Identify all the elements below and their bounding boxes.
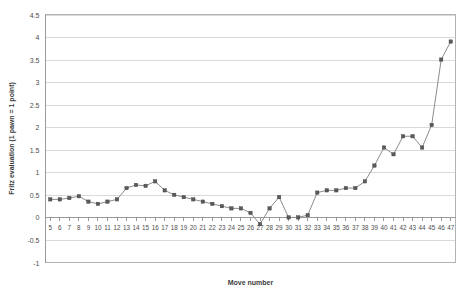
fritz-evaluation-line-chart: 4.543.532.521.510.50-0.5-1 5678910111213… — [0, 0, 462, 292]
data-point-marker — [325, 189, 328, 192]
data-point-marker — [163, 189, 166, 192]
data-point-marker — [87, 200, 90, 203]
y-tick-label: 2.5 — [30, 102, 40, 109]
data-point-marker — [392, 153, 395, 156]
data-point-marker — [306, 213, 309, 216]
y-tick-label: 0 — [36, 214, 40, 221]
x-tick-label: 43 — [409, 224, 417, 231]
x-tick-label: 44 — [419, 224, 427, 231]
x-tick-label: 45 — [428, 224, 436, 231]
x-tick-label: 22 — [209, 224, 217, 231]
x-tick-label: 6 — [58, 224, 62, 231]
x-tick-label: 15 — [142, 224, 150, 231]
data-point-marker — [211, 202, 214, 205]
data-point-marker — [363, 180, 366, 183]
x-tick-label: 11 — [104, 224, 111, 231]
data-point-marker — [268, 207, 271, 210]
x-tick-label: 39 — [371, 224, 379, 231]
data-point-marker — [201, 200, 204, 203]
data-point-marker — [354, 186, 357, 189]
data-point-marker — [239, 207, 242, 210]
y-tick-label: -1 — [33, 260, 39, 267]
x-tick-label: 41 — [390, 224, 398, 231]
chart-container: 4.543.532.521.510.50-0.5-1 5678910111213… — [0, 0, 462, 292]
x-tick-label: 5 — [49, 224, 53, 231]
x-tick-label: 8 — [77, 224, 81, 231]
x-tick-label: 19 — [180, 224, 188, 231]
data-point-marker — [335, 189, 338, 192]
x-tick-label: 28 — [266, 224, 274, 231]
data-point-marker — [134, 183, 137, 186]
data-point-marker — [440, 58, 443, 61]
data-point-marker — [182, 195, 185, 198]
series-line — [50, 42, 450, 225]
x-tick-label: 21 — [199, 224, 207, 231]
data-point-marker — [144, 184, 147, 187]
x-tick-label: 46 — [438, 224, 446, 231]
x-tick-label: 47 — [447, 224, 455, 231]
y-axis-title: Fritz evaluation (1 pawn = 1 point) — [8, 82, 16, 195]
data-point-marker — [173, 193, 176, 196]
x-tick-label: 12 — [114, 224, 122, 231]
y-tick-label: 1.5 — [30, 147, 40, 154]
x-tick-label: 35 — [333, 224, 341, 231]
y-tick-label: 3 — [36, 79, 40, 86]
y-tick-label: 1 — [36, 169, 40, 176]
x-tick-label: 42 — [400, 224, 408, 231]
x-tick-label: 24 — [228, 224, 236, 231]
x-tick-label: 17 — [161, 224, 169, 231]
x-axis-title: Move number — [228, 279, 274, 286]
data-point-marker — [115, 198, 118, 201]
data-point-marker — [430, 123, 433, 126]
data-point-marker — [258, 222, 261, 225]
y-tick-label: 4 — [36, 34, 40, 41]
data-point-marker — [401, 135, 404, 138]
data-point-marker — [58, 198, 61, 201]
y-tick-label: 3.5 — [30, 57, 40, 64]
x-tick-label: 16 — [152, 224, 160, 231]
x-axis-tick-labels: 5678910111213141516171819202122232425262… — [49, 224, 455, 231]
data-point-marker — [106, 200, 109, 203]
data-point-marker — [411, 135, 414, 138]
data-point-marker — [344, 186, 347, 189]
x-tick-label: 33 — [314, 224, 322, 231]
data-point-marker — [68, 196, 71, 199]
data-point-marker — [382, 146, 385, 149]
data-point-marker — [277, 195, 280, 198]
data-point-marker — [296, 216, 299, 219]
data-point-marker — [153, 180, 156, 183]
x-tick-label: 36 — [342, 224, 350, 231]
x-tick-label: 10 — [94, 224, 102, 231]
x-tick-label: 23 — [218, 224, 226, 231]
x-tick-label: 26 — [247, 224, 255, 231]
data-point-marker — [96, 202, 99, 205]
y-axis-tick-labels: 4.543.532.521.510.50-0.5-1 — [27, 12, 39, 267]
data-point-marker — [77, 195, 80, 198]
x-tick-label: 13 — [123, 224, 131, 231]
x-tick-label: 37 — [352, 224, 360, 231]
x-tick-label: 7 — [68, 224, 72, 231]
x-tick-label: 32 — [304, 224, 312, 231]
x-tick-label: 25 — [237, 224, 245, 231]
data-point-marker — [420, 146, 423, 149]
x-tick-label: 30 — [285, 224, 293, 231]
y-tick-label: 0.5 — [30, 192, 40, 199]
x-tick-label: 14 — [133, 224, 141, 231]
data-point-marker — [230, 207, 233, 210]
y-tick-label: 2 — [36, 124, 40, 131]
data-point-marker — [192, 198, 195, 201]
x-tick-label: 18 — [171, 224, 179, 231]
x-tick-label: 29 — [276, 224, 284, 231]
x-tick-label: 20 — [190, 224, 198, 231]
data-point-marker — [49, 198, 52, 201]
data-point-marker — [316, 191, 319, 194]
x-tick-label: 40 — [380, 224, 388, 231]
data-point-marker — [220, 204, 223, 207]
y-tick-label: 4.5 — [30, 12, 40, 19]
data-point-marker — [125, 186, 128, 189]
data-series-group — [49, 40, 453, 226]
x-tick-label: 9 — [87, 224, 91, 231]
data-point-marker — [287, 216, 290, 219]
data-point-marker — [449, 40, 452, 43]
y-tick-label: -0.5 — [27, 237, 39, 244]
